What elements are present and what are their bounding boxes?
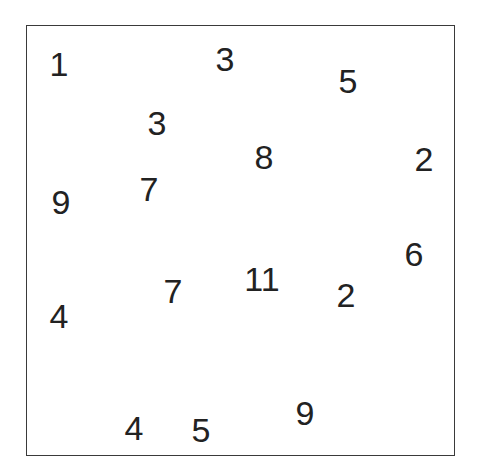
number-10: 7 [164, 274, 183, 308]
number-11: 2 [337, 278, 356, 312]
number-13: 9 [296, 396, 315, 430]
number-6: 9 [52, 185, 71, 219]
number-4: 8 [255, 140, 274, 174]
number-15: 5 [192, 413, 211, 447]
number-3: 3 [148, 106, 167, 140]
number-1: 3 [216, 42, 235, 76]
number-9: 11 [244, 262, 279, 296]
number-14: 4 [125, 411, 144, 445]
number-8: 6 [405, 237, 424, 271]
number-7: 7 [140, 172, 159, 206]
number-grid-frame [26, 25, 455, 456]
number-5: 2 [415, 142, 434, 176]
number-0: 1 [50, 47, 69, 81]
number-2: 5 [339, 64, 358, 98]
number-12: 4 [50, 299, 69, 333]
